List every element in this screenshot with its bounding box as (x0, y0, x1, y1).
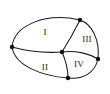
region-label-1: I (43, 27, 46, 37)
edge-center-to-bottom (62, 52, 68, 78)
vertex-left (10, 45, 14, 49)
vertex-bottom (66, 76, 70, 80)
vertex-top (78, 18, 82, 22)
vertex-center (60, 50, 64, 54)
vertex-right (96, 57, 100, 61)
edge-top-to-center (62, 20, 80, 52)
region-label-3: III (82, 34, 92, 44)
edge-center-to-right (62, 51, 98, 59)
edge-left-to-center (12, 47, 62, 52)
edge-group (12, 18, 98, 79)
vertex-group (10, 18, 100, 80)
planar-graph-figure: I II III IV (0, 0, 110, 94)
region-label-2: II (42, 62, 48, 72)
region-label-4: IV (74, 59, 84, 69)
graph-canvas: I II III IV (0, 0, 110, 94)
